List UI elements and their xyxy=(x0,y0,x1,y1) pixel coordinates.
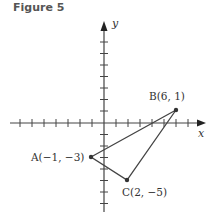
x-axis-arrow-icon xyxy=(197,120,206,127)
x-axis xyxy=(10,119,206,127)
point-b-label: B(6, 1) xyxy=(149,90,185,102)
y-axis-arrow-icon xyxy=(101,21,108,31)
coordinate-plane: x y A(−1, −3) B(6, 1) C(2, −5) xyxy=(0,0,211,220)
y-axis xyxy=(100,21,108,212)
point-c-label: C(2, −5) xyxy=(122,186,167,198)
x-axis-label: x xyxy=(198,127,205,140)
point-c xyxy=(125,178,129,182)
y-axis-label: y xyxy=(111,17,119,30)
point-a-label: A(−1, −3) xyxy=(30,151,84,163)
point-b xyxy=(174,108,178,112)
point-a xyxy=(89,155,93,159)
